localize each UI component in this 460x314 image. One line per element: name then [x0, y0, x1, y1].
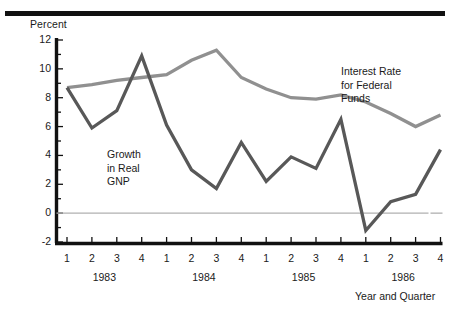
x-tick-label: 4 — [232, 252, 250, 264]
annotation-interest-rate: Interest Rate for Federal Funds — [341, 65, 401, 106]
x-tick-label: 1 — [257, 252, 275, 264]
x-tick-label: 2 — [282, 252, 300, 264]
y-tick-label: 4 — [29, 148, 51, 160]
annotation-gnp: Growth in Real GNP — [107, 148, 141, 189]
x-year-label: 1983 — [82, 271, 126, 283]
x-tick-label: 3 — [307, 252, 325, 264]
x-year-label: 1985 — [282, 271, 326, 283]
y-tick-label: 8 — [29, 91, 51, 103]
x-tick-label: 4 — [432, 252, 450, 264]
y-tick-label: 12 — [29, 33, 51, 45]
x-year-label: 1984 — [182, 271, 226, 283]
x-tick-label: 3 — [407, 252, 425, 264]
x-tick-label: 1 — [58, 252, 76, 264]
x-tick-label: 3 — [108, 252, 126, 264]
chart-figure: Percent -2024681012 1234123412341234 198… — [0, 0, 460, 314]
x-tick-label: 2 — [83, 252, 101, 264]
y-tick-label: 2 — [29, 177, 51, 189]
plot-area — [0, 0, 460, 314]
x-axis-title: Year and Quarter — [355, 290, 435, 302]
x-tick-label: 3 — [207, 252, 225, 264]
x-tick-label: 4 — [332, 252, 350, 264]
x-year-label: 1986 — [381, 271, 425, 283]
y-tick-label: 0 — [29, 206, 51, 218]
x-tick-label: 1 — [158, 252, 176, 264]
x-tick-label: 2 — [382, 252, 400, 264]
x-tick-label: 1 — [357, 252, 375, 264]
x-tick-label: 2 — [183, 252, 201, 264]
x-tick-label: 4 — [133, 252, 151, 264]
y-tick-label: -2 — [29, 235, 51, 247]
y-tick-label: 6 — [29, 120, 51, 132]
y-tick-label: 10 — [29, 62, 51, 74]
